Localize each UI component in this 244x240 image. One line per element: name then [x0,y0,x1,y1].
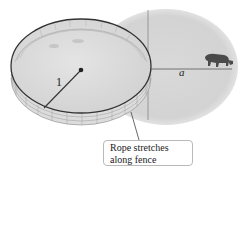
callout-line-1: Rope stretches [110,142,192,154]
distance-label-a: a [179,66,185,78]
stake-point [79,68,84,73]
rope-length-label: 1 [56,75,62,90]
callout-line-2: along fence [110,154,192,166]
callout-box: Rope stretches along fence [103,140,193,166]
